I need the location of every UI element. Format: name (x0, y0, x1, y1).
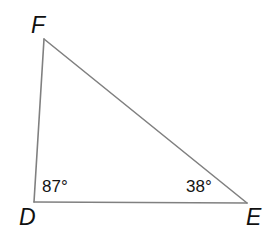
angle-measure-at-e: 38° (186, 178, 212, 195)
vertex-label-f: F (31, 14, 45, 37)
angle-measure-at-d: 87° (42, 178, 68, 195)
triangle-side-DE (34, 202, 247, 203)
vertex-label-e: E (246, 206, 261, 229)
triangle-side-FE (44, 39, 247, 203)
vertex-label-d: D (19, 206, 36, 229)
geometry-figure: F D E 87° 38° (0, 0, 273, 251)
